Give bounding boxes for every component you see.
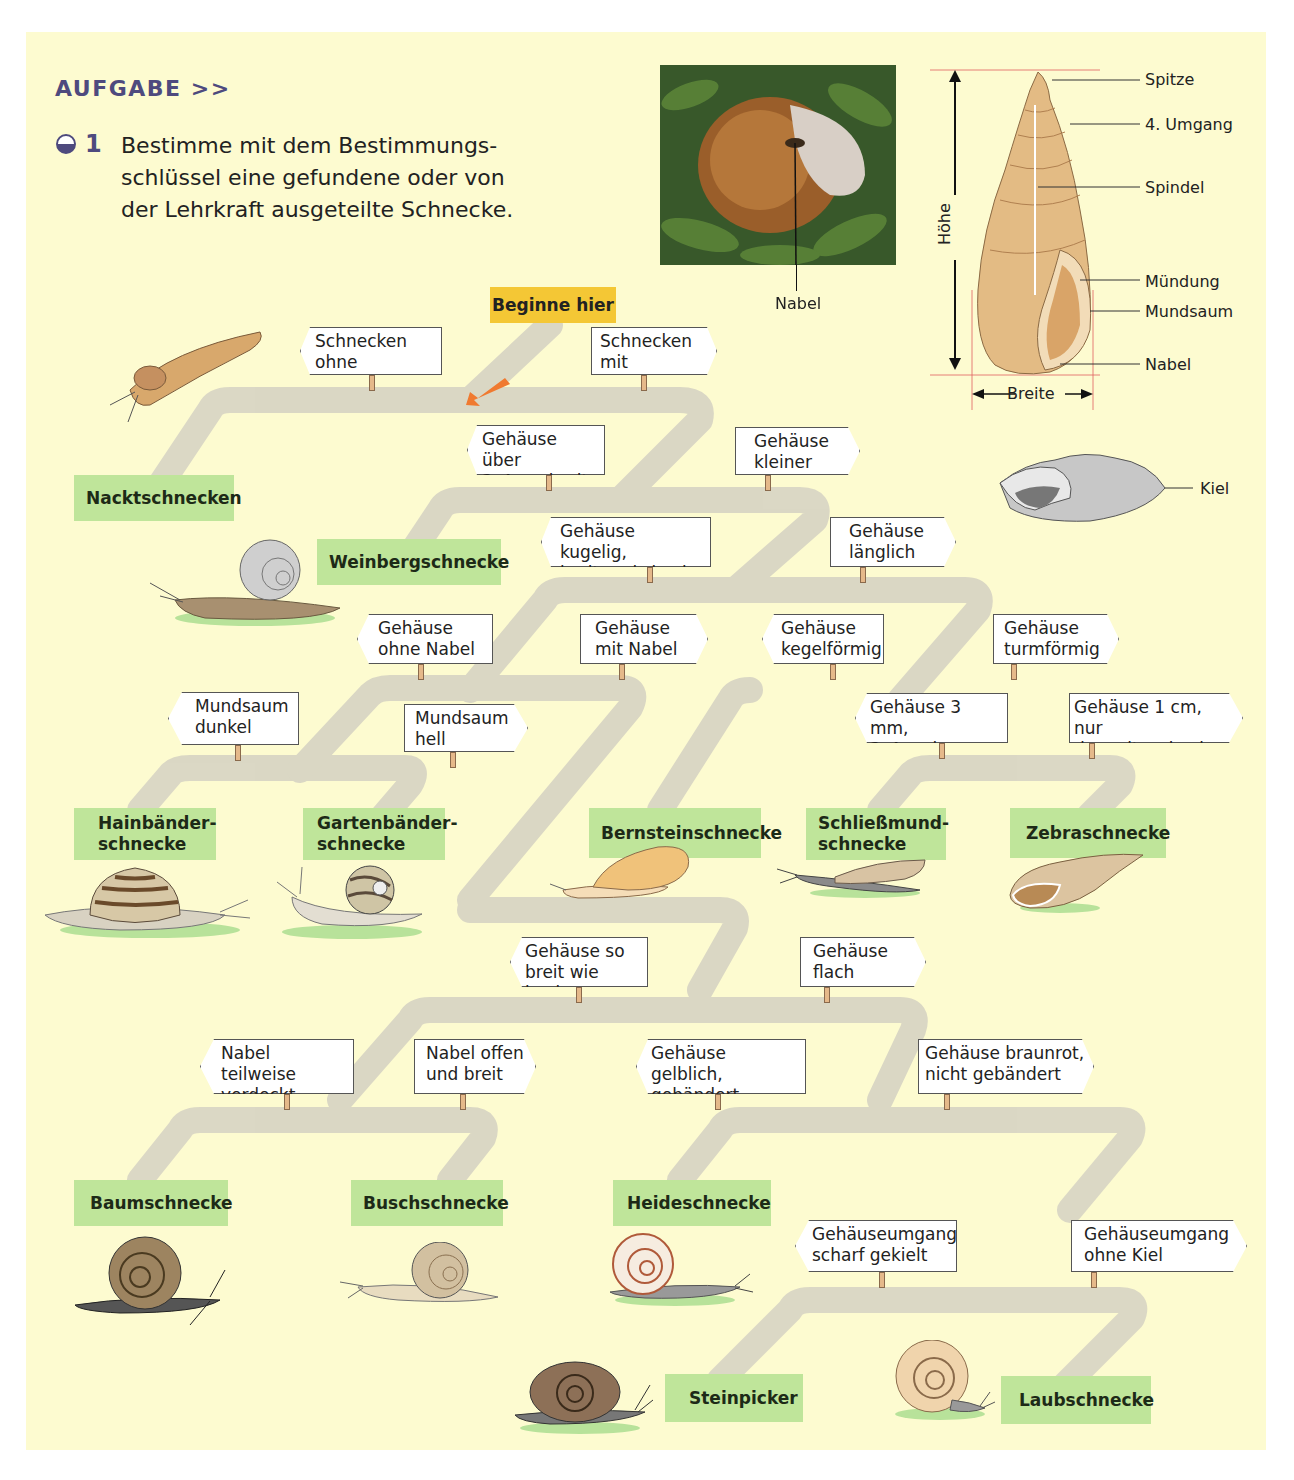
snail-shell-photo: [660, 65, 896, 265]
label-hoehe: Höhe: [935, 203, 954, 245]
result-buschschnecke: Buschschnecke: [351, 1180, 503, 1226]
label-umgang: 4. Umgang: [1145, 115, 1233, 134]
result-heideschnecke: Heideschnecke: [613, 1180, 771, 1226]
label-kiel: Kiel: [1200, 479, 1229, 498]
task-number: 1: [85, 130, 109, 158]
photo-pointer-line: [796, 265, 797, 291]
laubschnecke-illustration: [890, 1340, 1000, 1420]
keel-shell-diagram: [995, 448, 1195, 528]
start-label: Beginne hier: [490, 287, 616, 323]
shell-anatomy-diagram: [920, 60, 1260, 420]
weinbergschnecke-illustration: [145, 538, 350, 628]
section-label: AUFGABE >>: [55, 76, 231, 101]
steinpicker-illustration: [510, 1360, 655, 1435]
label-nabel: Nabel: [1145, 355, 1191, 374]
task: 1 Bestimme mit dem Bestimmungs-schlüssel…: [55, 130, 521, 226]
baumschnecke-illustration: [70, 1235, 230, 1330]
photo-label-nabel: Nabel: [775, 294, 821, 313]
result-laubschnecke: Laubschnecke: [1001, 1376, 1151, 1424]
schliessmundschnecke-illustration: [775, 855, 930, 900]
hainbaenderschnecke-illustration: [40, 860, 255, 940]
half-circle-difficulty-icon: [55, 133, 77, 155]
label-spindel: Spindel: [1145, 178, 1204, 197]
result-nacktschnecken: Nacktschnecken: [74, 475, 234, 521]
result-steinpicker: Steinpicker: [665, 1374, 803, 1422]
gartenbaenderschnecke-illustration: [272, 862, 427, 942]
label-spitze: Spitze: [1145, 70, 1194, 89]
label-muendung: Mündung: [1145, 272, 1220, 291]
heideschnecke-illustration: [605, 1232, 755, 1307]
task-text: Bestimme mit dem Bestimmungs-schlüssel e…: [121, 130, 521, 226]
buschschnecke-illustration: [338, 1242, 503, 1307]
result-gartenbaenderschnecke: Gartenbänder- schnecke: [303, 808, 445, 860]
result-hainbaenderschnecke: Hainbänder- schnecke: [74, 808, 216, 860]
slug-illustration: [100, 330, 270, 430]
result-schliessmundschnecke: Schließmund- schnecke: [806, 808, 946, 860]
result-baumschnecke: Baumschnecke: [74, 1180, 228, 1226]
zebraschnecke-illustration: [1005, 850, 1145, 915]
label-mundsaum: Mundsaum: [1145, 302, 1233, 321]
bernsteinschnecke-illustration: [548, 842, 713, 902]
label-breite: Breite: [1007, 384, 1055, 403]
